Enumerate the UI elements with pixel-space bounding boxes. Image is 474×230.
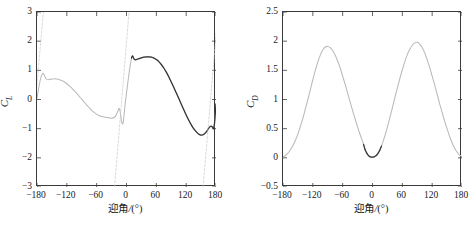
panel-lift-coefficient: −180−120−60060120180−3−2−10123 迎角/(°) CL <box>0 0 237 230</box>
y-tick-label: 2.5 <box>238 6 278 16</box>
plot-canvas-right <box>283 12 462 187</box>
x-axis-unit-left: (°) <box>131 203 142 214</box>
panel-drag-coefficient: −180−120−60060120180−0.500.511.522.5 迎角/… <box>237 0 474 230</box>
x-axis-label-left: 迎角/(°) <box>36 203 215 215</box>
x-axis-label-text-right: 迎角 <box>354 203 374 214</box>
y-axis-symbol-left: C <box>0 100 10 107</box>
series-CL-linear-slope-ref-3 <box>202 0 219 198</box>
series-CL-measured-dark <box>131 56 216 135</box>
series-CL-linear-slope-ref-2 <box>114 0 130 198</box>
x-tick-label: 180 <box>195 190 235 200</box>
x-axis-unit-right: (°) <box>377 203 388 214</box>
y-tick-label: 2 <box>0 35 32 45</box>
y-tick-label: 0.5 <box>238 123 278 133</box>
x-axis-label-right: 迎角/(°) <box>282 203 461 215</box>
x-tick-label: 180 <box>441 190 474 200</box>
y-axis-subscript-left: L <box>5 95 14 99</box>
y-tick-label: −1 <box>0 123 32 133</box>
plot-frame-right <box>282 11 461 186</box>
plot-frame-left <box>36 11 215 186</box>
y-tick-label: −3 <box>0 181 32 191</box>
y-tick-label: 1.5 <box>238 64 278 74</box>
plot-canvas-left <box>37 12 216 187</box>
series-CL-360deg-light <box>37 56 216 135</box>
y-tick-label: 1 <box>0 64 32 74</box>
y-axis-symbol-right: C <box>244 100 256 107</box>
y-tick-label: 0 <box>238 152 278 162</box>
y-tick-label: 2 <box>238 35 278 45</box>
y-tick-label: −0.5 <box>238 181 278 191</box>
y-tick-label: −2 <box>0 152 32 162</box>
x-axis-label-text-left: 迎角 <box>108 203 128 214</box>
series-CD-measured-dark <box>364 144 382 157</box>
figure-container: −180−120−60060120180−3−2−10123 迎角/(°) CL… <box>0 0 474 230</box>
y-axis-label-left: CL <box>0 86 16 116</box>
y-axis-subscript-right: D <box>251 95 260 100</box>
y-axis-label-right: CD <box>244 86 261 116</box>
y-tick-label: 3 <box>0 6 32 16</box>
series-CD-360deg-light <box>283 42 462 157</box>
